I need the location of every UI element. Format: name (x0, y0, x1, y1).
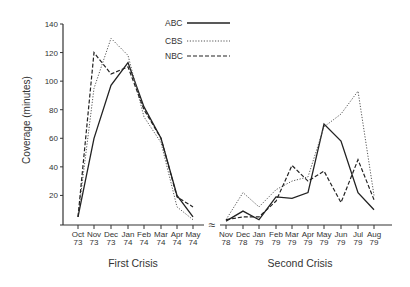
x-tick-label: 79 (255, 238, 264, 247)
y-tick-label: 120 (45, 49, 59, 58)
series-lines (78, 38, 374, 221)
x-axis-first-crisis: Oct73Nov73Dec73Jan74Feb74Mar74Apr74May74 (60, 225, 204, 247)
x-tick-label: 74 (140, 238, 149, 247)
x-tick-label: 79 (354, 238, 363, 247)
y-axis-label: Coverage (minutes) (21, 76, 32, 164)
first-crisis-label: First Crisis (108, 257, 158, 269)
legend-label-cbs: CBS (165, 36, 183, 46)
y-tick-label: 40 (49, 163, 58, 172)
y-tick-label: 20 (49, 191, 58, 200)
x-tick-label: 79 (272, 238, 281, 247)
x-tick-label: 78 (239, 238, 248, 247)
x-axis-second-crisis: Nov78Dec78Jan79Feb79Mar79Apr79May79Jun79… (219, 225, 392, 247)
series-abc-line (226, 124, 374, 221)
coverage-line-chart: 20406080100120140 Oct73Nov73Dec73Jan74Fe… (0, 0, 410, 287)
x-tick-label: 79 (304, 238, 313, 247)
x-tick-label: 74 (157, 238, 166, 247)
x-tick-label: 74 (173, 238, 182, 247)
x-tick-label: 74 (124, 238, 133, 247)
x-tick-label: 73 (107, 238, 116, 247)
series-cbs-line (226, 91, 374, 220)
x-tick-label: 73 (74, 238, 83, 247)
x-tick-label: 79 (337, 238, 346, 247)
x-tick-label: 79 (370, 238, 379, 247)
x-tick-label: 79 (288, 238, 297, 247)
y-tick-label: 80 (49, 106, 58, 115)
second-crisis-label: Second Crisis (268, 257, 333, 269)
series-nbc-line (226, 160, 374, 220)
legend: ABCCBSNBC (165, 18, 230, 61)
x-tick-label: 79 (320, 238, 329, 247)
legend-label-abc: ABC (165, 18, 182, 28)
y-tick-label: 60 (49, 134, 58, 143)
x-tick-label: 73 (90, 238, 99, 247)
y-axis: 20406080100120140 (45, 20, 63, 225)
x-tick-label: 78 (222, 238, 231, 247)
x-tick-label: 74 (189, 238, 198, 247)
y-tick-label: 140 (45, 20, 59, 29)
y-tick-label: 100 (45, 77, 59, 86)
axis-break-symbol: ≈ (209, 218, 216, 232)
legend-label-nbc: NBC (165, 51, 183, 61)
